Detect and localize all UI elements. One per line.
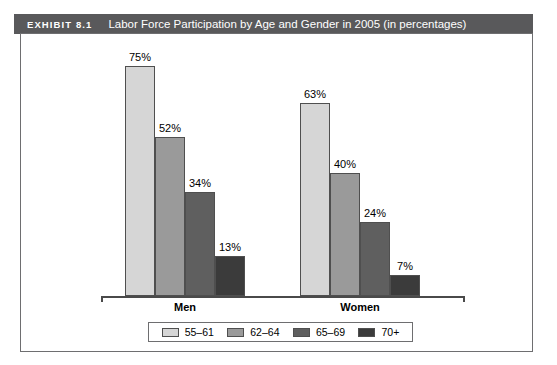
bar-value-label: 13%	[207, 241, 253, 253]
legend-swatch-icon	[162, 328, 179, 337]
bar-women-0	[300, 103, 330, 296]
bar-value-label: 40%	[322, 158, 368, 170]
bar-women-2	[360, 222, 390, 296]
bar-men-1	[155, 137, 185, 296]
legend-label: 70+	[381, 326, 399, 338]
legend-swatch-icon	[358, 328, 375, 337]
x-axis-tick-left	[101, 296, 103, 302]
bar-value-label: 52%	[147, 122, 193, 134]
exhibit-figure: EXHIBIT 8.1 Labor Force Participation by…	[0, 0, 557, 365]
bar-value-label: 63%	[292, 88, 338, 100]
chart-plot-area: 75%52%34%13%63%40%24%7%MenWomen	[0, 0, 557, 365]
chart-legend: 55–6162–6465–6970+	[148, 322, 413, 342]
legend-label: 55–61	[185, 326, 214, 338]
bar-men-0	[125, 66, 155, 296]
bar-women-3	[390, 275, 420, 296]
x-axis-line	[101, 296, 465, 298]
bar-value-label: 24%	[352, 207, 398, 219]
bar-value-label: 75%	[117, 51, 163, 63]
legend-swatch-icon	[227, 328, 244, 337]
group-label-women: Women	[280, 301, 440, 313]
bar-women-1	[330, 173, 360, 296]
legend-label: 62–64	[250, 326, 279, 338]
legend-label: 65–69	[316, 326, 345, 338]
legend-item-0: 55–61	[162, 326, 214, 338]
bar-men-3	[215, 256, 245, 296]
legend-item-1: 62–64	[227, 326, 279, 338]
legend-item-2: 65–69	[293, 326, 345, 338]
x-axis-tick-right	[463, 296, 465, 302]
legend-swatch-icon	[293, 328, 310, 337]
group-label-men: Men	[105, 301, 265, 313]
legend-item-3: 70+	[358, 326, 399, 338]
bar-value-label: 34%	[177, 177, 223, 189]
bar-value-label: 7%	[382, 260, 428, 272]
